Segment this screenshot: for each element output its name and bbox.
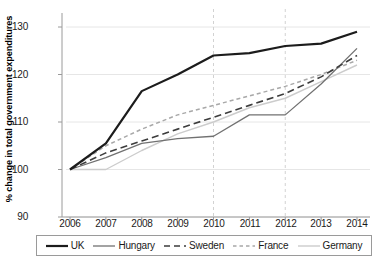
line-chart: % change in total government expenditure…: [0, 0, 382, 271]
fine-dashed-light-line-icon: [233, 242, 255, 250]
legend-item-uk[interactable]: UK: [46, 240, 85, 251]
legend-item-hungary[interactable]: Hungary: [93, 240, 154, 251]
legend-label-germany: Germany: [323, 240, 363, 251]
legend-item-germany[interactable]: Germany: [298, 240, 363, 251]
solid-light-gray-line-icon: [298, 242, 320, 250]
reference-vlines: [214, 9, 286, 217]
solid-gray-line-icon: [93, 242, 115, 250]
legend-label-hungary: Hungary: [118, 240, 154, 251]
dashed-dark-line-icon: [164, 242, 186, 250]
legend-label-sweden: Sweden: [189, 240, 224, 251]
legend: UK Hungary Sweden France Germany: [36, 235, 372, 256]
legend-item-sweden[interactable]: Sweden: [164, 240, 224, 251]
legend-label-france: France: [258, 240, 288, 251]
legend-label-uk: UK: [71, 240, 85, 251]
legend-item-france[interactable]: France: [233, 240, 288, 251]
solid-thick-black-line-icon: [46, 242, 68, 250]
plot-area: [0, 0, 382, 271]
